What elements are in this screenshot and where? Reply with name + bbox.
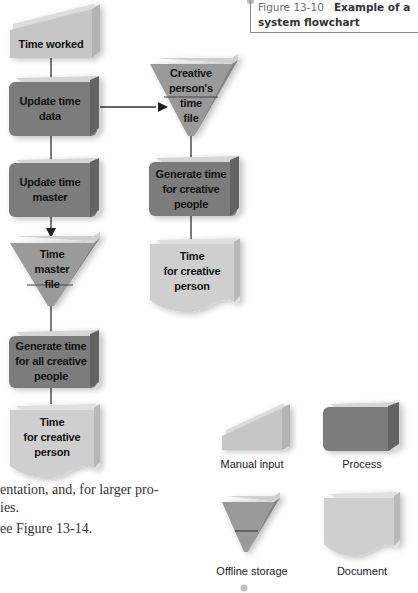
node-time-master-file: Time master file [10, 244, 94, 294]
node-update-time-master: Update time master [9, 165, 91, 215]
legend-label-manual-input: Manual input [212, 458, 292, 470]
legend-process-icon [323, 402, 400, 451]
node-time-worked: Time worked [10, 32, 92, 56]
legend-label-process: Process [322, 458, 402, 470]
node-time-document-right: Time for creative person [150, 246, 234, 296]
legend-label-offline-storage: Offline storage [208, 565, 296, 577]
node-generate-time-all: Generate time for all creative people [8, 336, 94, 386]
body-text-line2: ies. [0, 500, 19, 516]
body-text-line1: entation, and, for larger pro- [0, 482, 158, 498]
node-time-document-left: Time for creative person [10, 412, 94, 462]
node-update-time-data: Update time data [9, 84, 91, 134]
body-text-line3: ee Figure 13-14. [0, 521, 92, 537]
legend-label-document: Document [322, 565, 402, 577]
legend-offline-storage-icon [222, 492, 280, 552]
legend-manual-input-icon [222, 404, 290, 450]
node-creative-time-file: Creative person's time file [150, 65, 232, 127]
node-generate-time-creative: Generate time for creative people [148, 164, 234, 214]
legend-document-icon [324, 492, 400, 556]
